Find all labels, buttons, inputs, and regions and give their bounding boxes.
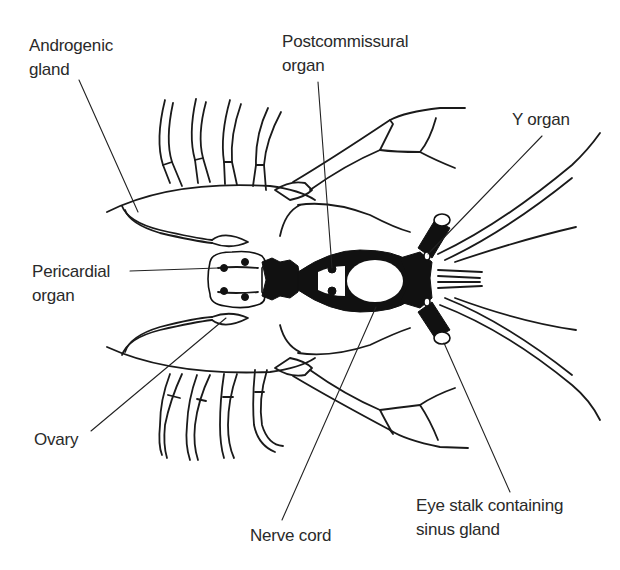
lower-claw xyxy=(275,358,468,448)
upper-walking-legs xyxy=(159,99,281,190)
leader-lines xyxy=(79,80,542,520)
pericardial-region xyxy=(208,252,265,308)
nervous-system xyxy=(262,214,450,344)
lower-walking-legs xyxy=(159,370,283,460)
label-nerve-cord: Nerve cord xyxy=(250,524,331,548)
label-ovary: Ovary xyxy=(34,428,78,452)
label-postcommissural-organ: Postcommissural organ xyxy=(282,30,408,78)
label-pericardial-organ: Pericardial organ xyxy=(32,260,110,308)
upper-claw xyxy=(275,108,465,200)
antennae xyxy=(438,133,600,420)
leader-pericardial-organ xyxy=(130,268,218,271)
label-eye-stalk: Eye stalk containing sinus gland xyxy=(416,494,563,542)
crayfish-endocrine-diagram: Androgenic gland Postcommissural organ Y… xyxy=(0,0,620,570)
leader-postcommissural-organ xyxy=(318,82,332,268)
leader-eye-stalk xyxy=(444,343,510,492)
leader-androgenic-gland xyxy=(79,80,138,212)
label-y-organ: Y organ xyxy=(512,108,570,132)
leader-ovary xyxy=(91,318,226,431)
leader-nerve-cord xyxy=(282,307,376,520)
leader-y-organ xyxy=(428,136,542,254)
label-androgenic-gland: Androgenic gland xyxy=(29,34,113,82)
